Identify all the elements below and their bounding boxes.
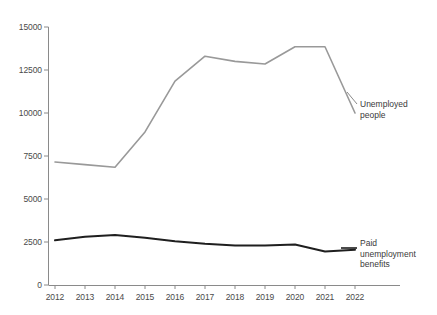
y-axis-tick-label: 15000 xyxy=(0,22,42,32)
y-axis-ticks xyxy=(44,27,49,285)
y-axis-tick-label: 10000 xyxy=(0,108,42,118)
paid-unemployment-benefits-label: Paidunemploymentbenefits xyxy=(360,238,416,270)
series-line-unemployed-people xyxy=(55,47,355,167)
y-axis-tick-label: 0 xyxy=(0,280,42,290)
x-axis-tick-label: 2018 xyxy=(226,292,245,302)
series-group xyxy=(55,47,355,252)
x-axis-tick-label: 2014 xyxy=(106,292,125,302)
line-chart: 0250050007500100001250015000 20122013201… xyxy=(0,0,437,315)
paid-unemployment-benefits-label-line: Paid xyxy=(360,238,416,249)
x-axis-ticks xyxy=(55,286,355,290)
x-axis-tick-label: 2021 xyxy=(316,292,335,302)
x-axis-tick-label: 2020 xyxy=(286,292,305,302)
unemployed-people-label-line: people xyxy=(360,110,408,121)
x-axis-tick-label: 2015 xyxy=(136,292,155,302)
unemployed-people-label-line: Unemployed xyxy=(360,99,408,110)
x-axis-tick-label: 2013 xyxy=(76,292,95,302)
y-axis-tick-label: 12500 xyxy=(0,65,42,75)
unemployed-people-label: Unemployedpeople xyxy=(360,99,408,120)
annotation-leaders-group xyxy=(341,92,357,248)
y-axis-tick-label: 7500 xyxy=(0,151,42,161)
x-axis-tick-label: 2022 xyxy=(346,292,365,302)
y-axis-tick-label: 5000 xyxy=(0,194,42,204)
x-axis-tick-label: 2016 xyxy=(166,292,185,302)
x-axis-tick-label: 2017 xyxy=(196,292,215,302)
paid-unemployment-benefits-label-line: benefits xyxy=(360,259,416,270)
paid-unemployment-benefits-label-line: unemployment xyxy=(360,249,416,260)
x-axis-tick-label: 2012 xyxy=(46,292,65,302)
series-line-paid-unemployment-benefits xyxy=(55,235,355,251)
x-axis-tick-label: 2019 xyxy=(256,292,275,302)
y-axis-tick-label: 2500 xyxy=(0,237,42,247)
